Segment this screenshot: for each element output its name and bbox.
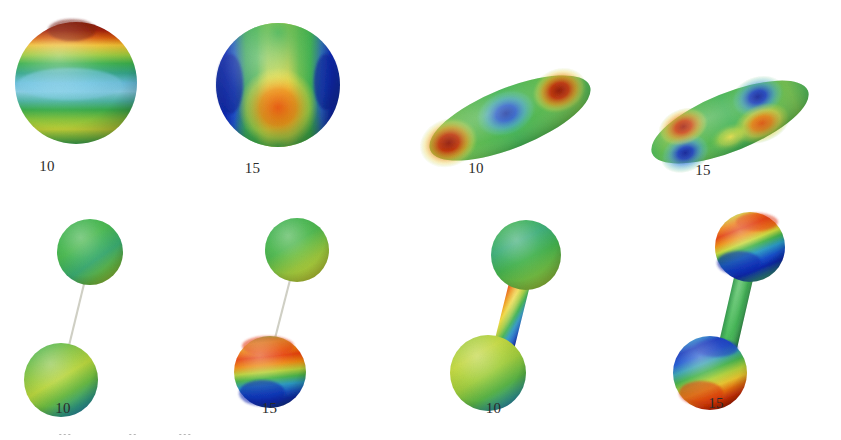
panel-dumbbell-thick-mode-10: 10 [418, 210, 633, 425]
panel-6-mode-label: 15 [162, 400, 377, 417]
figure-root: 10 15 [0, 0, 841, 440]
panel-6-render [200, 210, 415, 425]
panel-4-mode-label: 15 [595, 162, 811, 179]
clipped-bottom-text: ••• •• ••• [0, 434, 841, 440]
panel-ellipsoid-mode-10: 10 [400, 10, 620, 190]
panel-ellipsoid-mode-15: 15 [625, 12, 841, 192]
panel-5-mode-label: 10 [0, 400, 168, 417]
panel-1-mode-label: 10 [0, 158, 152, 175]
panel-dumbbell-thick-mode-15: 15 [635, 205, 841, 420]
panel-dumbbell-thin-mode-15: 15 [200, 210, 415, 425]
panel-3-mode-label: 10 [366, 160, 586, 177]
panel-2-mode-label: 15 [145, 160, 360, 177]
panel-7-render [418, 210, 633, 425]
panel-8-mode-label: 15 [613, 395, 819, 412]
panel-7-mode-label: 10 [386, 400, 601, 417]
panel-5-render [0, 210, 210, 425]
panel-dumbbell-thin-mode-10: 10 [0, 210, 210, 425]
panel-8-render [635, 205, 841, 420]
